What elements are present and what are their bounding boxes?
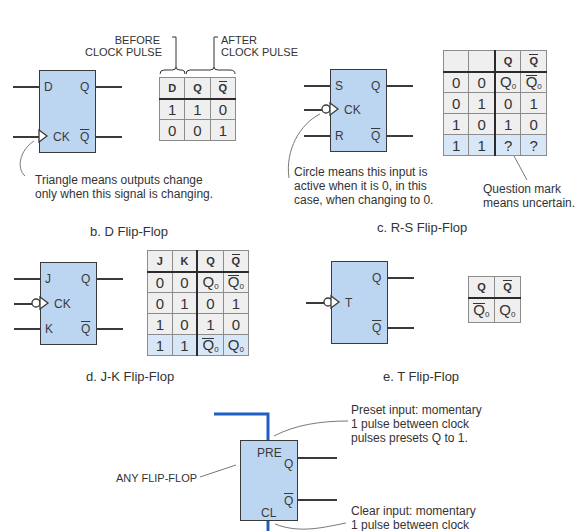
- toggle-triangle-icon: [331, 296, 339, 308]
- preset-wire: [214, 414, 268, 440]
- preset-leader-line: [274, 421, 348, 436]
- inversion-bubble-icon: [322, 105, 330, 113]
- before-bracket: [172, 37, 176, 67]
- clock-triangle-icon: [40, 297, 48, 309]
- clear-leader-line: [275, 523, 346, 529]
- diagram-overlay: [0, 0, 577, 531]
- circle-leader-line: [288, 114, 320, 178]
- after-brace-icon: [186, 67, 235, 74]
- any-flipflop-leader-line: [200, 465, 236, 477]
- after-bracket: [214, 37, 218, 67]
- triangle-leader-line: [20, 141, 34, 176]
- question-leader-line: [514, 156, 527, 180]
- before-brace-icon: [160, 67, 185, 74]
- inversion-bubble-icon: [32, 299, 40, 307]
- clock-triangle-icon: [330, 103, 338, 115]
- flip-flop-diagram: D CK Q Q BEFORE CLOCK PULSE AFTER CLOCK …: [0, 0, 577, 531]
- clock-triangle-icon: [39, 130, 47, 142]
